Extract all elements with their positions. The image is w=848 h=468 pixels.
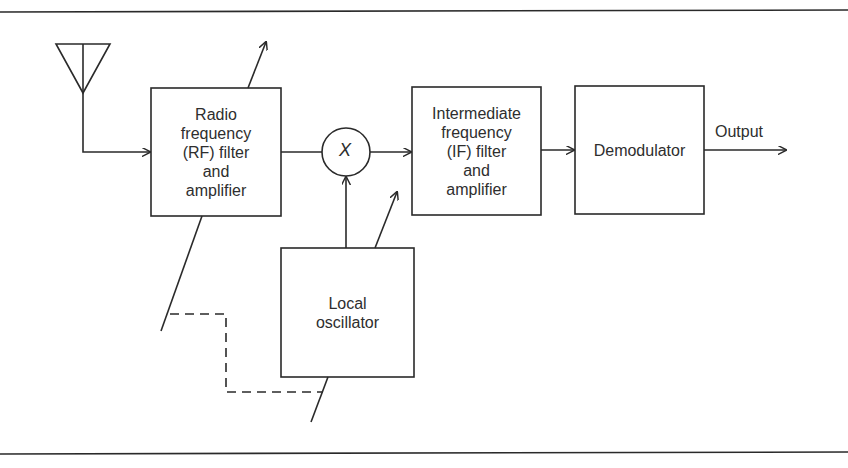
antenna-icon xyxy=(56,44,110,93)
block-diagram-canvas xyxy=(0,0,848,468)
lo-tuning-shaft xyxy=(311,377,328,422)
rf-label-line: frequency xyxy=(181,124,251,143)
rf-label-line: Radio xyxy=(195,105,237,124)
top-rule xyxy=(0,10,848,12)
if-label-line: Intermediate xyxy=(432,104,521,123)
rf-label-line: amplifier xyxy=(186,181,246,200)
demodulator-label-line: Demodulator xyxy=(594,141,686,160)
if-label-line: frequency xyxy=(441,123,511,142)
lo-tuning-arrow-icon xyxy=(375,192,397,248)
rf-label-line: and xyxy=(203,162,230,181)
demodulator-label: Demodulator xyxy=(575,86,704,214)
output-label: Output xyxy=(715,123,763,141)
rf-tuning-shaft xyxy=(161,216,202,331)
lo-label-line: oscillator xyxy=(316,313,379,332)
bottom-rule xyxy=(0,452,848,454)
rf-block-label: Radio frequency (RF) filter and amplifie… xyxy=(151,88,281,216)
if-label-line: (IF) filter xyxy=(447,142,507,161)
lo-label-line: Local xyxy=(328,294,366,313)
if-label-line: amplifier xyxy=(446,180,506,199)
if-label-line: and xyxy=(463,161,490,180)
if-block-label: Intermediate frequency (IF) filter and a… xyxy=(412,87,541,215)
antenna-to-rf-wire xyxy=(83,93,150,152)
rf-label-line: (RF) filter xyxy=(183,143,250,162)
local-oscillator-label: Local oscillator xyxy=(281,248,414,377)
rf-tuning-arrow-icon xyxy=(248,42,266,88)
mixer-label: X xyxy=(339,140,351,161)
